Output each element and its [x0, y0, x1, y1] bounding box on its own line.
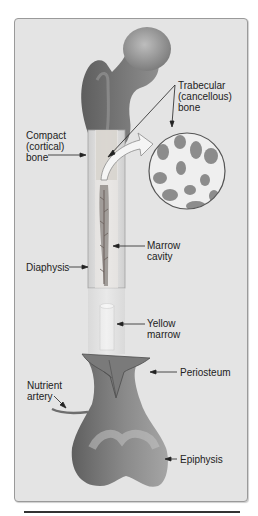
label-nutrient-artery: Nutrient artery: [27, 380, 62, 402]
label-line: Yellow: [147, 318, 180, 329]
label-trabecular-bone: Trabecular (cancellous) bone: [178, 80, 232, 113]
label-line: Compact: [26, 130, 66, 141]
trabecular-inset: [149, 133, 225, 211]
nutrient-artery-vessel: [52, 409, 88, 413]
label-line: Nutrient: [27, 380, 62, 391]
label-line: bone: [26, 152, 66, 163]
label-line: Trabecular: [178, 80, 232, 91]
label-line: (cancellous): [178, 91, 232, 102]
label-line: marrow: [147, 329, 180, 340]
label-epiphysis: Epiphysis: [180, 454, 223, 465]
label-marrow-cavity: Marrow cavity: [147, 240, 180, 262]
label-line: artery: [27, 391, 62, 402]
label-diaphysis: Diaphysis: [26, 262, 69, 273]
label-compact-bone: Compact (cortical) bone: [26, 130, 66, 163]
label-line: (cortical): [26, 141, 66, 152]
label-yellow-marrow: Yellow marrow: [147, 318, 180, 340]
label-line: Marrow: [147, 240, 180, 251]
distal-epiphysis: [72, 354, 168, 487]
label-line: bone: [178, 102, 232, 113]
bone-illustration: [0, 0, 258, 516]
label-periosteum: Periosteum: [180, 367, 231, 378]
label-line: cavity: [147, 251, 180, 262]
bottom-rule: [24, 511, 240, 513]
